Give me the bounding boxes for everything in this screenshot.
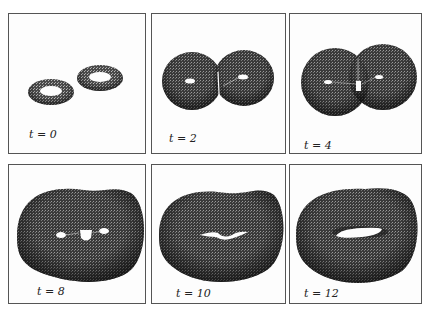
time-label: t = 2 — [169, 132, 197, 145]
panel-t12: t = 12 — [289, 164, 422, 304]
time-label: t = 0 — [29, 128, 57, 141]
merging-tori-image — [290, 14, 423, 155]
panel-t10: t = 10 — [151, 164, 286, 304]
torus-merging-holes-image — [152, 165, 287, 305]
panel-t0: t = 0 — [8, 13, 146, 154]
single-torus-image — [290, 165, 423, 305]
torus-three-holes-image — [9, 165, 147, 305]
time-label: t = 8 — [37, 285, 65, 298]
time-label: t = 12 — [304, 287, 339, 300]
time-label: t = 4 — [304, 139, 332, 152]
panel-t4: t = 4 — [289, 13, 422, 154]
panel-t2: t = 2 — [151, 13, 286, 154]
time-label: t = 10 — [176, 287, 211, 300]
panel-t8: t = 8 — [8, 164, 146, 304]
